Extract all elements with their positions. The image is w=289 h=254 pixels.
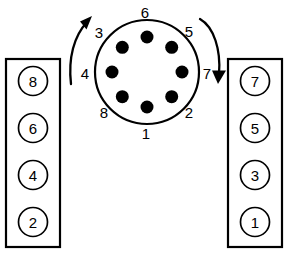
cylinder-number: 8 bbox=[29, 73, 37, 90]
terminal-label-4: 4 bbox=[81, 65, 89, 82]
right-cylinder-bank: 7 5 3 1 bbox=[228, 59, 282, 247]
terminal-dot-8[interactable] bbox=[116, 90, 129, 103]
terminal-label-5: 5 bbox=[185, 23, 193, 40]
firing-order-diagram: 8 6 4 2 7 5 bbox=[0, 0, 289, 254]
terminal-dot-3[interactable] bbox=[116, 41, 129, 54]
terminal-label-2: 2 bbox=[185, 104, 193, 121]
terminal-dot-5[interactable] bbox=[165, 41, 178, 54]
cylinder-number: 5 bbox=[251, 120, 259, 137]
distributor-cap: 1 2 7 5 6 3 4 8 bbox=[81, 4, 211, 142]
terminal-label-3: 3 bbox=[95, 24, 103, 41]
terminal-dot-1[interactable] bbox=[141, 101, 154, 114]
right-bank-cylinder-1[interactable]: 1 bbox=[241, 208, 270, 237]
terminal-label-7: 7 bbox=[203, 65, 211, 82]
cylinder-number: 1 bbox=[251, 214, 259, 231]
right-arrow-head bbox=[212, 71, 226, 85]
cylinder-number: 3 bbox=[251, 167, 259, 184]
terminal-label-6: 6 bbox=[141, 4, 149, 21]
cylinder-number: 2 bbox=[29, 214, 37, 231]
terminal-dot-6[interactable] bbox=[141, 31, 154, 44]
terminal-label-1: 1 bbox=[142, 125, 150, 142]
right-bank-cylinder-5[interactable]: 5 bbox=[241, 114, 270, 143]
cylinder-number: 4 bbox=[29, 167, 37, 184]
left-bank-cylinder-4[interactable]: 4 bbox=[19, 161, 48, 190]
left-cylinder-bank: 8 6 4 2 bbox=[6, 59, 60, 247]
terminal-label-8: 8 bbox=[100, 104, 108, 121]
cylinder-number: 6 bbox=[29, 120, 37, 137]
terminal-dot-7[interactable] bbox=[176, 66, 189, 79]
cylinder-number: 7 bbox=[251, 73, 259, 90]
terminal-dot-2[interactable] bbox=[165, 90, 178, 103]
diagram-canvas: 8 6 4 2 7 5 bbox=[0, 0, 289, 254]
right-bank-cylinder-7[interactable]: 7 bbox=[241, 67, 270, 96]
right-bank-cylinder-3[interactable]: 3 bbox=[241, 161, 270, 190]
left-bank-cylinder-8[interactable]: 8 bbox=[19, 67, 48, 96]
left-bank-cylinder-2[interactable]: 2 bbox=[19, 208, 48, 237]
terminal-dot-4[interactable] bbox=[106, 66, 119, 79]
left-bank-cylinder-6[interactable]: 6 bbox=[19, 114, 48, 143]
